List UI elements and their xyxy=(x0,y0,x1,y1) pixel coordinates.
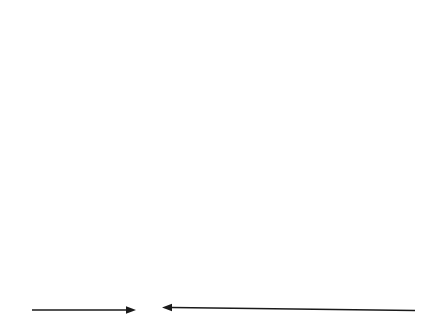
chart-svg xyxy=(0,0,430,324)
figure-container xyxy=(0,0,430,324)
left-to-right-arrow xyxy=(32,306,136,313)
right-to-left-arrow xyxy=(162,304,415,311)
trend-arrows xyxy=(32,304,415,314)
